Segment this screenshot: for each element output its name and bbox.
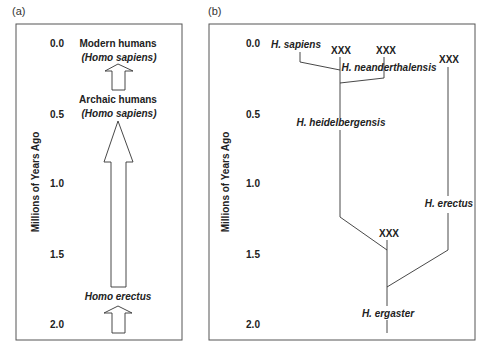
stage-archaic-humans: Archaic humans <box>79 94 157 105</box>
taxon-h-ergaster: H. ergaster <box>362 308 415 319</box>
taxon-h-neanderthalensis: H. neanderthalensis <box>341 62 436 73</box>
taxon-h-heidelbergensis: H. heidelbergensis <box>297 117 386 128</box>
extinct-marker: XXX <box>376 45 396 56</box>
arrow-up-icon <box>104 121 133 287</box>
arrow-up-icon <box>105 64 133 90</box>
extinct-marker: XXX <box>439 54 459 65</box>
panel-b-tick-4: 2.0 <box>246 319 260 330</box>
panel-a-tick-2: 1.0 <box>50 178 64 189</box>
panel-a-tick-4: 2.0 <box>50 319 64 330</box>
panel-b-tick-1: 0.5 <box>246 109 260 120</box>
panel-b-tick-0: 0.0 <box>246 38 260 49</box>
stage-archaic-humans-species: (Homo sapiens) <box>81 108 157 119</box>
panel-b-tick-2: 1.0 <box>246 178 260 189</box>
arrow-up-icon <box>104 306 132 333</box>
panel-b-tick-3: 1.5 <box>246 249 260 260</box>
panel-a-tag: (a) <box>12 5 25 17</box>
taxon-h-erectus: H. erectus <box>425 198 474 209</box>
panel-b-axis-label: Millions of Years Ago <box>220 132 231 233</box>
panel-a-tick-3: 1.5 <box>50 249 64 260</box>
stage-homo-erectus: Homo erectus <box>85 291 152 302</box>
stage-modern-humans: Modern humans <box>79 38 157 49</box>
branch-erectus-to-ergaster <box>387 250 448 287</box>
taxon-h-sapiens: H. sapiens <box>271 39 321 50</box>
panel-b-tag: (b) <box>208 5 221 17</box>
panel-a-tick-1: 0.5 <box>50 109 64 120</box>
stage-modern-humans-species: (Homo sapiens) <box>81 52 157 63</box>
panel-a-axis-label: Millions of Years Ago <box>30 132 41 233</box>
phylogeny-tree <box>300 52 448 333</box>
figure-canvas: (a) Millions of Years Ago 0.0 0.5 1.0 1.… <box>0 0 485 354</box>
extinct-marker: XXX <box>379 228 399 239</box>
extinct-marker: XXX <box>331 45 351 56</box>
panel-a-tick-0: 0.0 <box>50 38 64 49</box>
